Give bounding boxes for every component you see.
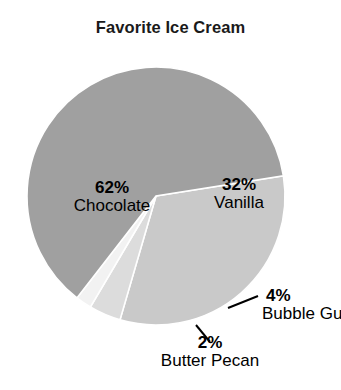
slice-percent-chocolate: 62% <box>46 179 178 197</box>
slice-name-butter-pecan: Butter Pecan <box>138 352 282 370</box>
slice-label-chocolate: 62% Chocolate <box>46 179 178 216</box>
pie-chart-figure: Favorite Ice Cream 62% Chocolate 32% Van… <box>0 0 341 390</box>
slice-percent-butter-pecan: 2% <box>138 334 282 352</box>
slice-name-bubble-gum: Bubble Gum <box>262 305 336 323</box>
slice-label-bubble-gum: 4% Bubble Gum <box>262 287 336 324</box>
slice-percent-vanilla: 32% <box>186 176 292 194</box>
slice-label-vanilla: 32% Vanilla <box>186 176 292 213</box>
slice-name-chocolate: Chocolate <box>46 197 178 215</box>
slice-label-butter-pecan: 2% Butter Pecan <box>138 334 282 371</box>
slice-percent-bubble-gum: 4% <box>262 287 336 305</box>
slice-name-vanilla: Vanilla <box>186 194 292 212</box>
